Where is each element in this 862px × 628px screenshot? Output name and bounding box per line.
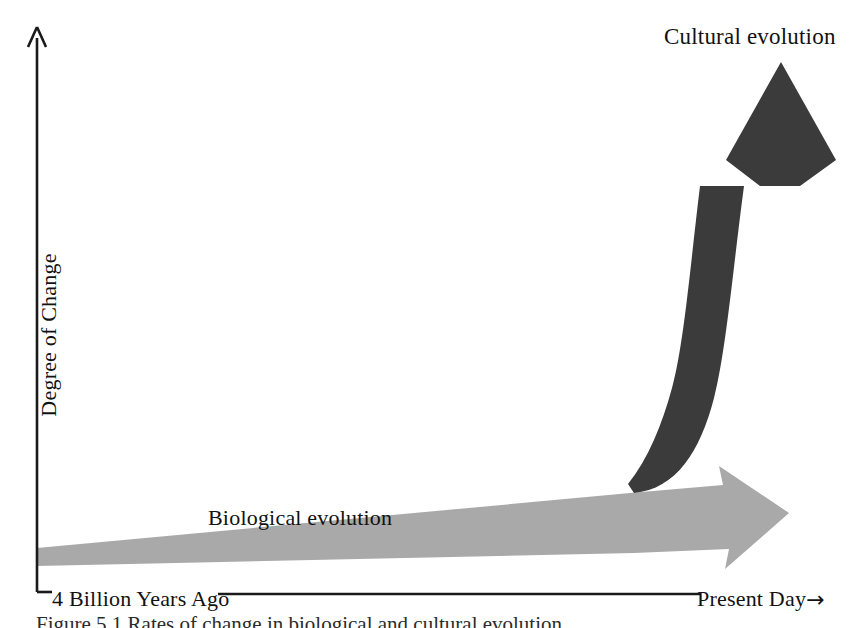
evolution-rate-diagram: Cultural evolution Biological evolution … — [0, 0, 862, 628]
diagram-canvas — [0, 0, 862, 628]
cultural-evolution-label: Cultural evolution — [664, 24, 836, 50]
figure-caption: Figure 5.1 Rates of change in biological… — [36, 612, 836, 628]
cultural-evolution-arrow — [628, 62, 836, 493]
x-axis-start-label: 4 Billion Years Ago — [52, 586, 229, 612]
right-arrow-icon: → — [806, 587, 825, 612]
biological-evolution-label: Biological evolution — [208, 505, 392, 531]
x-axis-end-label: Present Day→ — [697, 586, 825, 612]
biological-evolution-arrow — [37, 466, 789, 569]
y-axis-label: Degree of Change — [36, 220, 62, 450]
x-axis-end-label-text: Present Day — [697, 586, 806, 611]
